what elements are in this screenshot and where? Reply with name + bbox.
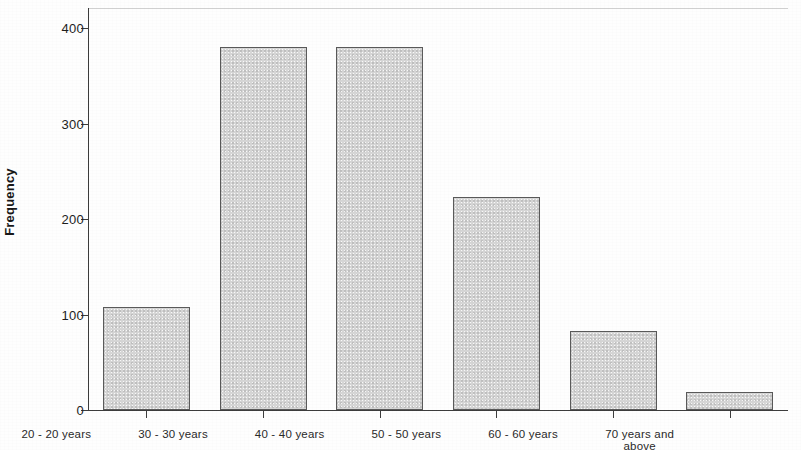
plot-area: 0100200300400 20 - 20 years30 - 30 years… bbox=[88, 8, 788, 410]
x-tick-mark bbox=[263, 411, 264, 418]
x-tick-label-text: 70 years and above bbox=[580, 428, 700, 450]
x-tick-mark bbox=[380, 411, 381, 418]
y-tick-label: 200 bbox=[61, 212, 84, 227]
bar bbox=[336, 47, 423, 410]
x-tick-mark bbox=[730, 411, 731, 418]
y-axis-line bbox=[88, 8, 89, 411]
bar-chart-figure: Frequency 0100200300400 20 - 20 years30 … bbox=[0, 0, 801, 450]
x-tick-label-text: 40 - 40 years bbox=[230, 428, 350, 440]
y-tick-label: 0 bbox=[76, 403, 84, 418]
x-tick-label-text: 50 - 50 years bbox=[346, 428, 466, 440]
bar bbox=[686, 392, 773, 410]
y-tick-label: 400 bbox=[61, 21, 84, 36]
x-tick-mark bbox=[496, 411, 497, 418]
x-axis-line bbox=[88, 410, 788, 411]
x-tick-label-text: 60 - 60 years bbox=[463, 428, 583, 440]
x-tick-label: 70 years and above bbox=[580, 428, 760, 450]
plot-top-border bbox=[88, 8, 788, 9]
bar bbox=[103, 307, 190, 410]
x-tick-mark bbox=[146, 411, 147, 418]
y-tick-label: 100 bbox=[61, 307, 84, 322]
bar bbox=[220, 47, 307, 410]
bar bbox=[570, 331, 657, 410]
y-tick-label: 300 bbox=[61, 116, 84, 131]
y-axis-title: Frequency bbox=[2, 142, 17, 262]
bar bbox=[453, 197, 540, 410]
x-tick-label-text: 20 - 20 years bbox=[0, 428, 116, 440]
x-tick-mark bbox=[613, 411, 614, 418]
x-tick-label-text: 30 - 30 years bbox=[113, 428, 233, 440]
